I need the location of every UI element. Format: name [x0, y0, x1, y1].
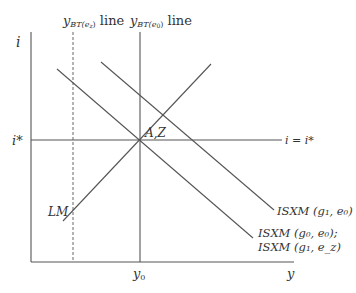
i-equals-i-star-label: i = i* — [285, 134, 314, 147]
ybt-e0-label: yBT(e0) line — [129, 13, 192, 29]
isxm-g0-e0-curve — [57, 69, 253, 238]
isxm-g1-ez-label: ISXM (g₁, e_z) — [257, 240, 341, 254]
lm-curve — [63, 64, 211, 221]
isxm-g1-e0-label: ISXM (g₁, e₀) — [276, 204, 353, 218]
intersection-label: A,Z — [144, 126, 166, 140]
ybt-ez-label: yBT(ez) line — [62, 13, 125, 29]
y-axis-label: i — [16, 34, 20, 50]
y0-tick-label: y0 — [132, 266, 145, 282]
isxm-g1-e0-curve — [101, 62, 274, 210]
is-lm-bp-diagram: i i* yBT(ez) line yBT(e0) line A,Z i = i… — [0, 0, 356, 293]
i-star-label: i* — [12, 133, 23, 148]
x-axis-label: y — [286, 266, 295, 281]
lm-label: LM — [47, 205, 69, 219]
isxm-g0-e0-label: ISXM (g₀, e₀); — [257, 226, 338, 240]
